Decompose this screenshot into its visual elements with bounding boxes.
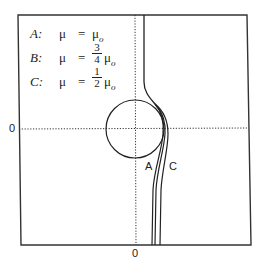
curve-label-c: C (169, 160, 177, 172)
y-axis-dotted (135, 15, 136, 245)
legend-frac-den-b: 4 (92, 54, 102, 65)
legend-rhs-mu-c: μ (104, 74, 111, 89)
legend-rhs-c: μo (104, 74, 115, 92)
legend-eq-a: = (78, 26, 85, 42)
x-axis-dotted (19, 128, 249, 129)
legend-rhs-mu-b: μ (104, 50, 111, 65)
curve-label-a: A (145, 160, 152, 172)
x-zero-label: 0 (132, 247, 138, 259)
legend-mu-c: μ (59, 74, 66, 90)
legend-mu-a: μ (59, 26, 66, 42)
legend-fraction-c: 1 2 (92, 66, 102, 89)
legend-key-a: A: (30, 26, 42, 42)
legend-rhs-sub-b: o (111, 58, 116, 68)
legend-rhs-mu-a: μ (92, 26, 99, 41)
legend-rhs-sub-c: o (111, 82, 116, 92)
legend-mu-b: μ (59, 50, 66, 66)
legend-key-c: C: (30, 74, 43, 90)
streamline-upstream (144, 15, 155, 104)
legend-fraction-b: 3 4 (92, 42, 102, 65)
streamline-c (155, 104, 168, 245)
legend-frac-den-c: 2 (92, 78, 102, 89)
legend-eq-b: = (78, 50, 85, 66)
legend-eq-c: = (78, 74, 85, 90)
legend-rhs-b: μo (104, 50, 115, 68)
legend-key-b: B: (30, 50, 42, 66)
y-zero-label: 0 (9, 122, 15, 134)
plot-frame (18, 15, 251, 245)
